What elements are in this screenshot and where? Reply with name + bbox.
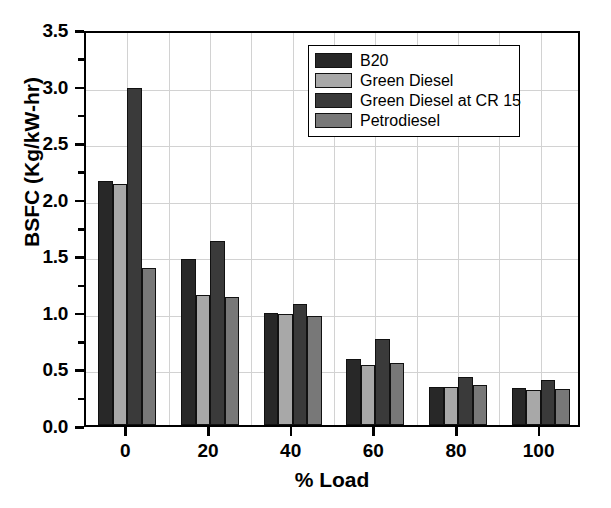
x-tick-label: 0 bbox=[85, 440, 165, 462]
x-axis-title: % Load bbox=[84, 468, 580, 492]
y-tick-minor bbox=[78, 58, 84, 61]
y-tick-minor bbox=[78, 341, 84, 344]
legend: B20Green DieselGreen Diesel at CR 15Petr… bbox=[308, 45, 520, 137]
y-tick-major bbox=[75, 426, 84, 429]
legend-label: Green Diesel at CR 15 bbox=[360, 93, 521, 109]
bar bbox=[429, 387, 444, 425]
gridline-horizontal bbox=[86, 372, 578, 373]
y-tick-minor bbox=[78, 285, 84, 288]
bar bbox=[541, 380, 556, 425]
y-tick-major bbox=[75, 143, 84, 146]
y-tick-major bbox=[75, 87, 84, 90]
bar bbox=[458, 377, 473, 425]
bar bbox=[512, 388, 527, 425]
legend-item: B20 bbox=[315, 51, 513, 70]
y-tick-major bbox=[75, 369, 84, 372]
y-tick-major bbox=[75, 256, 84, 259]
bsfc-bar-chart: 0.00.51.01.52.02.53.03.5 020406080100 BS… bbox=[0, 0, 611, 508]
y-tick-minor bbox=[78, 115, 84, 118]
x-tick-label: 20 bbox=[168, 440, 248, 462]
gridline-vertical bbox=[169, 33, 170, 425]
y-tick-minor bbox=[78, 398, 84, 401]
y-tick-major bbox=[75, 200, 84, 203]
gridline-horizontal bbox=[86, 203, 578, 204]
x-tick-major bbox=[538, 427, 541, 436]
x-tick-label: 80 bbox=[416, 440, 496, 462]
legend-swatch-icon bbox=[315, 113, 352, 128]
bar bbox=[307, 316, 322, 425]
y-axis-title: BSFC (Kg/kW-hr) bbox=[20, 12, 44, 312]
y-tick-label: 0.5 bbox=[8, 359, 68, 381]
bar bbox=[555, 389, 570, 425]
x-tick-major bbox=[455, 427, 458, 436]
x-tick-label: 100 bbox=[499, 440, 579, 462]
gridline-horizontal bbox=[86, 259, 578, 260]
bar bbox=[210, 241, 225, 425]
gridline-horizontal bbox=[86, 146, 578, 147]
legend-label: Green Diesel bbox=[360, 73, 453, 89]
bar bbox=[278, 314, 293, 425]
legend-label: B20 bbox=[360, 53, 388, 69]
gridline-vertical bbox=[251, 33, 252, 425]
legend-swatch-icon bbox=[315, 93, 352, 108]
legend-item: Green Diesel bbox=[315, 71, 513, 90]
x-tick-major bbox=[207, 427, 210, 436]
bar bbox=[264, 313, 279, 425]
bar bbox=[142, 268, 157, 425]
x-tick-major bbox=[290, 427, 293, 436]
legend-item: Green Diesel at CR 15 bbox=[315, 91, 513, 110]
bar bbox=[196, 295, 211, 425]
y-tick-minor bbox=[78, 171, 84, 174]
bar bbox=[526, 390, 541, 425]
bar bbox=[127, 88, 142, 425]
gridline-horizontal bbox=[86, 316, 578, 317]
y-tick-label: 0.0 bbox=[8, 416, 68, 438]
legend-swatch-icon bbox=[315, 53, 352, 68]
bar bbox=[346, 359, 361, 425]
bar bbox=[98, 181, 113, 425]
legend-swatch-icon bbox=[315, 73, 352, 88]
gridline-vertical bbox=[541, 33, 542, 425]
y-tick-minor bbox=[78, 228, 84, 231]
bar bbox=[113, 184, 128, 425]
bar bbox=[181, 259, 196, 425]
x-tick-major bbox=[372, 427, 375, 436]
bar bbox=[473, 385, 488, 425]
bar bbox=[293, 304, 308, 425]
bar bbox=[444, 387, 459, 425]
x-tick-label: 60 bbox=[333, 440, 413, 462]
bar bbox=[225, 297, 240, 425]
y-tick-major bbox=[75, 30, 84, 33]
legend-label: Petrodiesel bbox=[360, 113, 440, 129]
x-tick-label: 40 bbox=[251, 440, 331, 462]
bar bbox=[390, 363, 405, 425]
y-tick-major bbox=[75, 313, 84, 316]
x-tick-major bbox=[124, 427, 127, 436]
bar bbox=[361, 365, 376, 425]
bar bbox=[375, 339, 390, 425]
legend-item: Petrodiesel bbox=[315, 111, 513, 130]
